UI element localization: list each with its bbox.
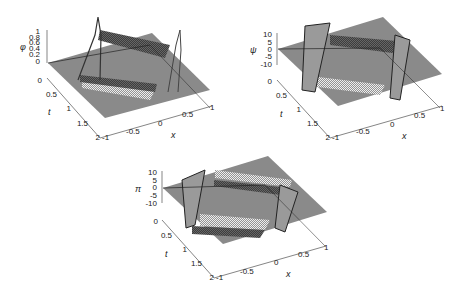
zlabel-psi: ψ (250, 45, 257, 55)
ttick: 1.5 (191, 259, 203, 268)
plot-psi: ψ 10 5 0 -5 -10 0 0.5 1 1.5 2 t -1 -0.5 … (230, 0, 460, 150)
ztick: 0 (36, 57, 41, 66)
xtick: 0 (274, 258, 279, 267)
plot-pi: π 10 5 0 -5 -10 0 0.5 1 1.5 2 t -1 -0.5 … (110, 140, 350, 296)
ttick: 1.5 (307, 119, 319, 128)
xtick: -0.5 (356, 127, 370, 136)
tlabel: t (165, 249, 168, 259)
xtick: -0.5 (240, 267, 254, 276)
xtick: 0.5 (414, 111, 426, 120)
ttick: 2 (210, 273, 215, 282)
xtick: 1 (440, 104, 445, 113)
xtick: 0.5 (298, 250, 310, 259)
tlabel: t (48, 107, 51, 117)
xtick: -0.5 (126, 127, 140, 136)
xtick: 0.5 (182, 110, 194, 119)
xlabel: x (170, 130, 176, 140)
ztick: -10 (145, 199, 157, 208)
ttick: 2 (96, 133, 101, 142)
surface-pi: π 10 5 0 -5 -10 0 0.5 1 1.5 2 t -1 -0.5 … (110, 140, 350, 296)
ttick: 0.5 (46, 90, 58, 99)
xtick: 0 (390, 120, 395, 129)
surface-phi: φ 1 0.8 0.6 0.4 0.2 0 0 0.5 1 1.5 2 t -1… (0, 0, 230, 150)
ttick: 1 (297, 105, 302, 114)
plot-phi: φ 1 0.8 0.6 0.4 0.2 0 0 0.5 1 1.5 2 t -1… (0, 0, 230, 150)
ttick: 1.5 (77, 119, 89, 128)
xtick: 1 (210, 103, 215, 112)
zlabel-phi: φ (20, 42, 26, 52)
tlabel: t (280, 109, 283, 119)
ttick: 0 (268, 77, 273, 86)
ttick: 0.5 (276, 91, 288, 100)
surface-plane (278, 17, 442, 106)
zlabel-pi: π (135, 184, 142, 194)
ttick: 0.5 (161, 231, 173, 240)
ttick: 0 (154, 217, 159, 226)
xlabel: x (401, 131, 407, 141)
surface-psi: ψ 10 5 0 -5 -10 0 0.5 1 1.5 2 t -1 -0.5 … (230, 0, 460, 150)
xlabel: x (285, 269, 291, 279)
ttick: 1 (183, 245, 188, 254)
ztick: -10 (260, 60, 272, 69)
xtick: 0 (158, 119, 163, 128)
ttick: 0 (38, 76, 43, 85)
xtick: 1 (324, 243, 329, 252)
xtick: -1 (216, 273, 224, 282)
xtick: -1 (102, 133, 110, 142)
ttick: 1 (67, 104, 72, 113)
